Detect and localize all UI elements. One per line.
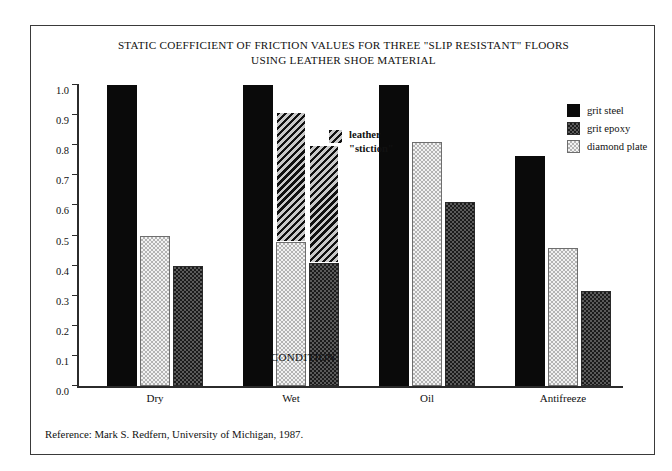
bar-grit-epoxy-dry <box>173 266 203 386</box>
y-axis-tick <box>72 385 77 386</box>
chart-title: STATIC COEFFICIENT OF FRICTION VALUES FO… <box>31 38 656 68</box>
stiction-label-line-1: leather <box>349 128 394 142</box>
chart-title-line-2: USING LEATHER SHOE MATERIAL <box>31 53 656 68</box>
legend-swatch-icon <box>567 122 580 135</box>
y-axis-line <box>77 84 79 387</box>
y-axis-tick <box>72 325 77 326</box>
x-axis-label: CONDITION <box>271 351 336 363</box>
x-axis-category-wet: Wet <box>282 392 299 404</box>
bar-diamond-plate-wet <box>276 112 306 386</box>
x-axis-category-dry: Dry <box>146 392 163 404</box>
legend-swatch-icon <box>567 104 580 117</box>
x-axis-category-antifreeze: Antifreeze <box>540 392 586 404</box>
y-axis-tick <box>72 204 77 205</box>
bar-segment-base <box>276 242 306 386</box>
bar-diamond-plate-dry <box>140 236 170 387</box>
legend-item: diamond plate <box>567 138 647 155</box>
x-axis-line <box>77 386 623 388</box>
x-axis-category-oil: Oil <box>420 392 434 404</box>
legend-label: grit epoxy <box>587 123 630 134</box>
legend-label: diamond plate <box>587 141 647 152</box>
bar-diamond-plate-antifreeze <box>548 248 578 386</box>
stiction-annotation-text: leather "stiction" <box>349 128 394 155</box>
bar-grit-epoxy-antifreeze <box>581 291 611 386</box>
bar-segment-stiction <box>309 145 339 262</box>
bar-segment-base <box>243 85 273 386</box>
y-axis-tick <box>72 265 77 266</box>
bar-segment-base <box>548 248 578 386</box>
y-axis-tick <box>72 144 77 145</box>
bar-grit-steel-antifreeze <box>515 156 545 386</box>
legend-item: grit steel <box>567 102 647 119</box>
y-axis-tick <box>72 174 77 175</box>
legend-swatch-icon <box>567 140 580 153</box>
reference-note: Reference: Mark S. Redfern, University o… <box>45 428 303 440</box>
bar-grit-steel-dry <box>107 85 137 386</box>
chart-legend: grit steelgrit epoxydiamond plate <box>567 102 647 156</box>
legend-label: grit steel <box>587 105 624 116</box>
bar-segment-base <box>173 266 203 386</box>
bar-segment-base <box>515 156 545 386</box>
y-axis-tick <box>72 355 77 356</box>
bar-segment-base <box>107 85 137 386</box>
chart-title-line-1: STATIC COEFFICIENT OF FRICTION VALUES FO… <box>31 38 656 53</box>
bar-grit-steel-wet <box>243 85 273 386</box>
bar-segment-base <box>445 202 475 386</box>
stiction-label-line-2: "stiction" <box>349 142 394 156</box>
bar-segment-base <box>581 291 611 386</box>
y-axis-tick <box>72 114 77 115</box>
legend-item: grit epoxy <box>567 120 647 137</box>
y-axis-tick <box>72 235 77 236</box>
y-axis-tick <box>72 84 77 85</box>
stiction-swatch-icon <box>328 129 343 144</box>
bar-grit-epoxy-oil <box>445 202 475 386</box>
bar-segment-base <box>140 236 170 387</box>
stiction-annotation: leather "stiction" <box>328 128 394 155</box>
bar-grit-epoxy-wet <box>309 145 339 386</box>
chart-frame: STATIC COEFFICIENT OF FRICTION VALUES FO… <box>30 25 655 455</box>
bar-diamond-plate-oil <box>412 142 442 386</box>
bar-segment-base <box>309 263 339 386</box>
y-axis-tick <box>72 295 77 296</box>
bar-segment-base <box>412 142 442 386</box>
bar-segment-stiction <box>276 112 306 241</box>
